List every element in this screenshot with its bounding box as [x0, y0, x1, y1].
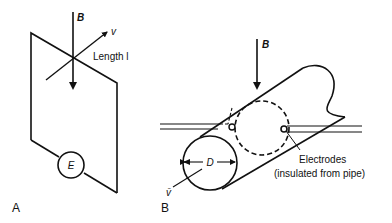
panel-b-label: B [161, 201, 169, 215]
electrodes-label: Electrodes [299, 154, 346, 165]
flow-velocity-label: v̄ [166, 187, 172, 198]
panel-a: B v Length l E A [12, 12, 129, 215]
diameter-label: D [206, 157, 213, 168]
b-field-label: B [262, 39, 269, 50]
velocity-label: v [111, 26, 117, 37]
panel-a-label: A [12, 201, 20, 215]
length-label: Length l [93, 51, 129, 62]
diagram-canvas: B v Length l E A [0, 0, 392, 223]
electrodes-note: (insulated from pipe) [274, 168, 365, 179]
left-electrode-icon [229, 124, 235, 130]
b-field-label: B [77, 12, 84, 23]
emf-label: E [68, 160, 75, 171]
panel-b: D v̄ B Electrodes (insulated from pipe) … [160, 39, 365, 215]
